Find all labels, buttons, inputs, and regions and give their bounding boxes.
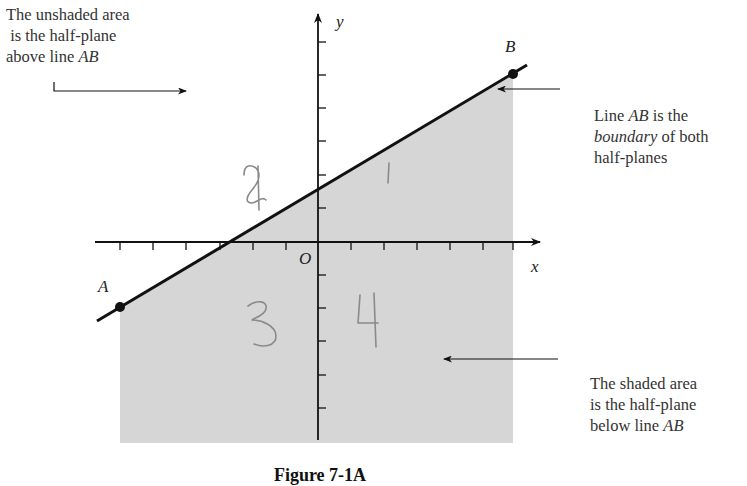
shaded-half-plane — [120, 74, 513, 443]
annotation-italic: AB — [663, 416, 683, 435]
annotation-italic: boundary — [594, 127, 657, 146]
annotation-text: above line — [6, 47, 78, 66]
annotation-line: The unshaded area — [6, 4, 130, 25]
annotation-shaded-area: The shaded area is the half-plane below … — [590, 373, 697, 436]
annotation-line: Line AB is the — [594, 105, 709, 126]
annotation-text: Line — [594, 106, 628, 125]
annotation-line: The shaded area — [590, 373, 697, 394]
point-b — [508, 69, 518, 79]
annotation-line: above line AB — [6, 46, 130, 67]
annotation-line: is the half-plane — [590, 394, 697, 415]
annotation-line: is the half-plane — [6, 25, 130, 46]
x-axis-label: x — [530, 257, 539, 276]
annotation-line: half-planes — [594, 147, 709, 168]
point-a-label: A — [97, 277, 109, 296]
y-axis-label: y — [334, 12, 344, 31]
arrow-to-unshaded-area — [54, 82, 186, 91]
annotation-text: is the half-plane — [10, 26, 116, 45]
annotation-line: boundary of both — [594, 126, 709, 147]
origin-label: O — [299, 249, 311, 268]
annotation-text: is the — [649, 106, 688, 125]
handwritten-mark-1 — [388, 163, 389, 183]
handwritten-mark-2 — [244, 166, 266, 210]
point-b-label: B — [505, 37, 516, 56]
point-a — [115, 302, 125, 312]
annotation-italic: AB — [78, 47, 98, 66]
annotation-text: of both — [657, 127, 708, 146]
annotation-italic: AB — [628, 106, 648, 125]
annotation-unshaded-area: The unshaded area is the half-plane abov… — [6, 4, 130, 67]
annotation-boundary: Line AB is the boundary of both half-pla… — [594, 105, 709, 168]
annotation-line: below line AB — [590, 415, 697, 436]
annotation-text: below line — [590, 416, 663, 435]
figure-caption: Figure 7-1A — [0, 465, 640, 486]
